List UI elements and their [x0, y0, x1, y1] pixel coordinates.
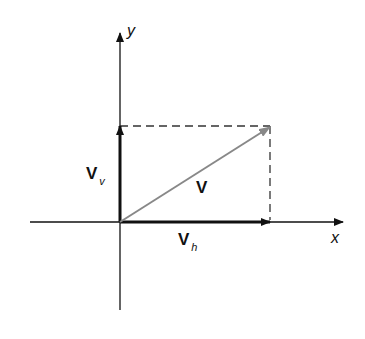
y-axis-label: y: [127, 22, 135, 40]
vertical-component-label: Vv: [86, 164, 103, 184]
resultant-label: V: [196, 178, 207, 198]
x-axis-label: x: [331, 229, 339, 247]
vector-resultant: [120, 127, 270, 222]
vector-diagram: [0, 0, 365, 339]
horizontal-component-label: Vh: [178, 230, 195, 250]
